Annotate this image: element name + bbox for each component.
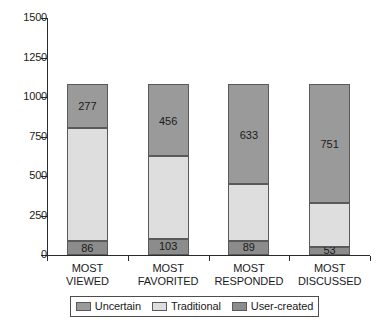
y-axis-tick-label-wrap: 500	[0, 170, 47, 181]
y-axis-tick-label-wrap: 1250	[0, 52, 47, 63]
x-axis-tick	[128, 256, 129, 261]
y-axis-tick-label-wrap: 250	[0, 210, 47, 221]
x-axis-tick	[289, 256, 290, 261]
y-axis-tick-label: 0	[9, 249, 47, 260]
y-axis-tick-label: 250	[9, 210, 47, 221]
x-axis-tick	[209, 256, 210, 261]
bar-segment-value-label: 89	[243, 242, 255, 253]
plot-area: 862771034568963353751	[47, 18, 370, 255]
bar-segment-traditional[interactable]	[228, 184, 269, 241]
bar-segment-value-label: 103	[159, 241, 177, 252]
y-axis-tick-label-wrap: 1000	[0, 91, 47, 102]
legend-item-traditional[interactable]: Traditional	[152, 301, 221, 312]
bar-segment-uncertain[interactable]: 751	[309, 84, 350, 203]
y-axis-tick-label: 1500	[9, 12, 47, 23]
legend-label: Traditional	[171, 301, 221, 312]
legend-swatch-icon	[232, 302, 247, 311]
legend-item-uncertain[interactable]: Uncertain	[76, 301, 141, 312]
y-axis-tick-label-wrap: 750	[0, 131, 47, 142]
x-axis-category-label: MOSTDISCUSSED	[275, 262, 384, 287]
bar-segment-uncertain[interactable]: 456	[148, 84, 189, 156]
y-axis-tick-label: 750	[9, 131, 47, 142]
bar-segment-traditional[interactable]	[309, 203, 350, 247]
bar-segment-user-created[interactable]: 103	[148, 239, 189, 255]
bar-segment-user-created[interactable]: 89	[228, 241, 269, 255]
y-axis-tick-label: 1250	[9, 52, 47, 63]
stacked-bar-chart: 0250500750100012501500 86277103456896335…	[0, 0, 384, 328]
bar-segment-value-label: 456	[159, 116, 177, 127]
legend-swatch-icon	[152, 302, 167, 311]
bar-segment-value-label: 86	[81, 243, 93, 254]
bar-segment-value-label: 751	[321, 139, 339, 150]
y-axis-tick-label-wrap: 1500	[0, 12, 47, 23]
bar-segment-uncertain[interactable]: 277	[67, 84, 108, 128]
bar-segment-value-label: 633	[240, 130, 258, 141]
legend-item-user-created[interactable]: User-created	[232, 301, 313, 312]
x-axis-tick	[370, 256, 371, 261]
bar-most-discussed[interactable]: 53751	[309, 18, 350, 255]
bar-most-favorited[interactable]: 103456	[148, 18, 189, 255]
legend-swatch-icon	[76, 302, 91, 311]
bar-segment-traditional[interactable]	[148, 156, 189, 239]
bar-segment-value-label: 277	[78, 101, 96, 112]
bar-segment-traditional[interactable]	[67, 128, 108, 242]
y-axis-tick-label: 500	[9, 170, 47, 181]
y-axis-tick-label-wrap: 0	[0, 249, 47, 260]
y-axis-tick-label: 1000	[9, 91, 47, 102]
bar-most-viewed[interactable]: 86277	[67, 18, 108, 255]
bar-most-responded[interactable]: 89633	[228, 18, 269, 255]
bar-segment-value-label: 53	[324, 245, 336, 256]
bar-segment-user-created[interactable]: 53	[309, 247, 350, 255]
x-axis-category-label-line: MOST	[275, 262, 384, 275]
legend-label: User-created	[251, 301, 313, 312]
x-axis-tick	[47, 256, 48, 261]
x-axis-category-label-line: DISCUSSED	[275, 275, 384, 288]
bar-segment-uncertain[interactable]: 633	[228, 84, 269, 184]
bar-segment-user-created[interactable]: 86	[67, 241, 108, 255]
chart-legend: UncertainTraditionalUser-created	[70, 296, 319, 317]
legend-label: Uncertain	[95, 301, 141, 312]
